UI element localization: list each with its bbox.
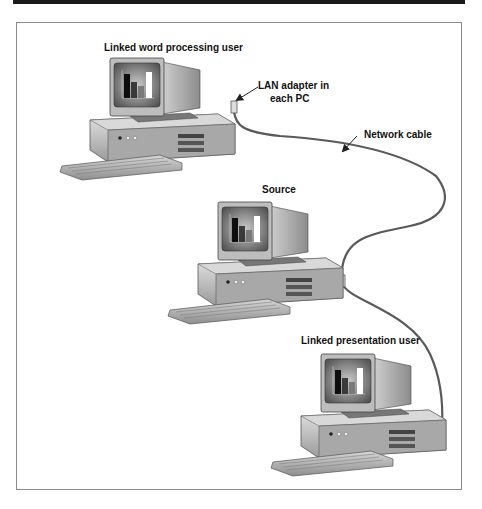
label-presentation-user: Linked presentation user — [301, 335, 420, 347]
label-source: Source — [262, 184, 296, 196]
network-diagram — [0, 0, 482, 509]
label-lan-adapter-line1: LAN adapter in — [258, 80, 329, 92]
lan-adapter-icon — [231, 101, 237, 113]
arrow-icon — [237, 87, 258, 100]
word-processing-computer-icon — [60, 58, 235, 180]
label-lan-adapter-line2: each PC — [270, 93, 309, 105]
source-computer-icon — [168, 202, 343, 324]
presentation-computer-icon — [271, 354, 446, 476]
label-network-cable: Network cable — [364, 129, 432, 141]
label-word-processing-user: Linked word processing user — [104, 42, 243, 54]
